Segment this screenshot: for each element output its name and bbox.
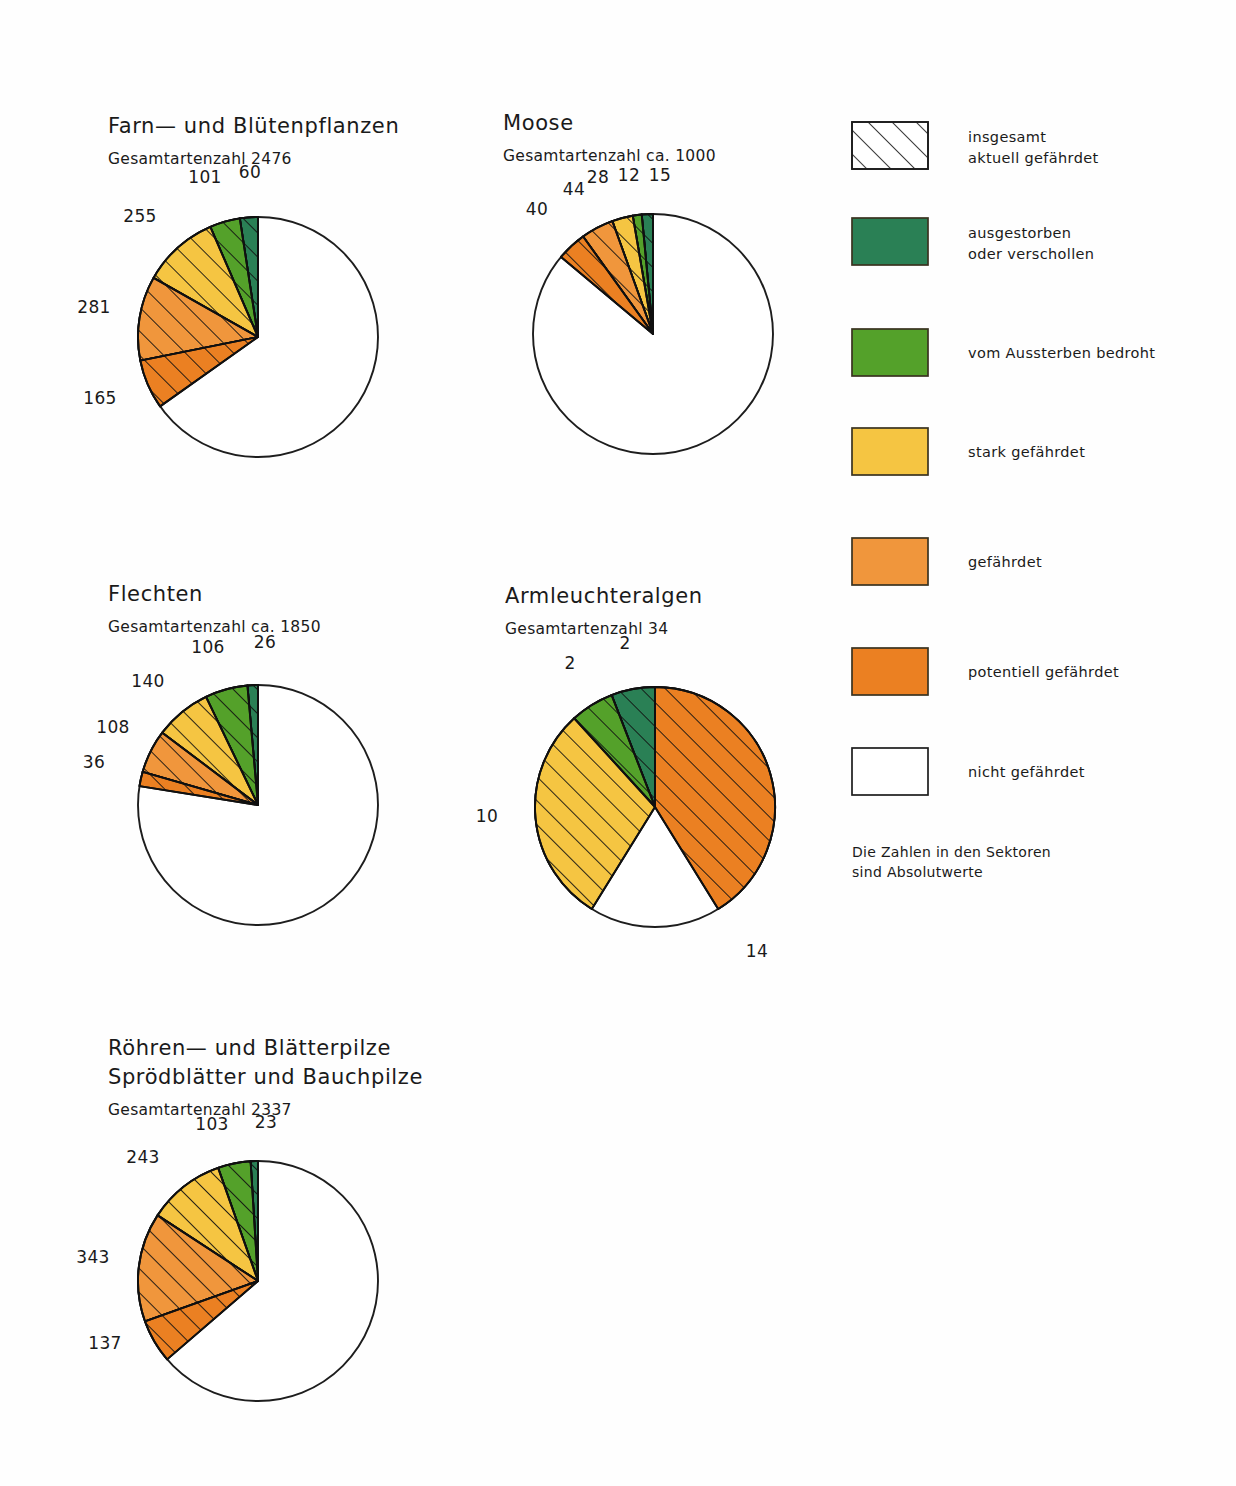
pie-title-1: Farn— und Blütenpflanzen — [108, 114, 399, 138]
figure-canvas: Farn— und BlütenpflanzenGesamtartenzahl … — [0, 0, 1236, 1486]
legend-label-3: vom Aussterben bedroht — [968, 345, 1155, 361]
pie-4-value-label-2: 2 — [564, 653, 575, 673]
pie-2-value-label-1: 15 — [649, 165, 671, 185]
legend-label-5: gefährdet — [968, 554, 1042, 570]
pie-1-value-label-3: 255 — [123, 206, 157, 226]
charts-layer: Farn— und BlütenpflanzenGesamtartenzahl … — [76, 111, 775, 1401]
pie-2-value-label-3: 28 — [587, 167, 609, 187]
legend: insgesamtaktuell gefährdetausgestorbenod… — [852, 122, 1155, 795]
pie-3-value-label-1: 26 — [254, 632, 276, 652]
legend-label-6: potentiell gefährdet — [968, 664, 1119, 680]
pie-title-2: Moose — [503, 111, 574, 135]
pie-5-value-label-3: 243 — [126, 1147, 160, 1167]
legend-swatch-1-hatch — [852, 122, 928, 169]
pie-3-value-label-5: 36 — [83, 752, 105, 772]
legend-label-2-line-2: oder verschollen — [968, 246, 1094, 262]
legend-item-3[interactable]: vom Aussterben bedroht — [852, 329, 1155, 376]
legend-swatch-7 — [852, 748, 928, 795]
legend-item-2[interactable]: ausgestorbenoder verschollen — [852, 218, 1094, 265]
pie-1-value-label-1: 60 — [239, 162, 261, 182]
legend-label-7: nicht gefährdet — [968, 764, 1085, 780]
pie-chart-3: FlechtenGesamtartenzahl ca. 185026106140… — [83, 582, 378, 925]
legend-item-6[interactable]: potentiell gefährdet — [852, 648, 1119, 695]
pie-chart-4: ArmleuchteralgenGesamtartenzahl 34221014 — [476, 584, 775, 961]
pie-1-value-label-5: 165 — [83, 388, 117, 408]
pie-subtitle-3: Gesamtartenzahl ca. 1850 — [108, 618, 321, 636]
legend-item-4[interactable]: stark gefährdet — [852, 428, 1085, 475]
pie-2-value-label-4: 44 — [563, 179, 585, 199]
legend-swatch-2 — [852, 218, 928, 265]
figure-note-line-2: sind Absolutwerte — [852, 864, 983, 880]
pie-3-value-label-2: 106 — [191, 637, 225, 657]
pie-1-value-label-4: 281 — [77, 297, 111, 317]
pie-5-value-label-2: 103 — [195, 1114, 229, 1134]
legend-swatch-6 — [852, 648, 928, 695]
legend-swatch-4 — [852, 428, 928, 475]
legend-item-5[interactable]: gefährdet — [852, 538, 1042, 585]
legend-label-1-line-1: insgesamt — [968, 129, 1046, 145]
pie-3-value-label-3: 140 — [131, 671, 165, 691]
pie-subtitle-1: Gesamtartenzahl 2476 — [108, 150, 292, 168]
pie-2-value-label-5: 40 — [526, 199, 548, 219]
pie-chart-5: Röhren— und BlätterpilzeSprödblätter und… — [76, 1036, 423, 1401]
pie-5-value-label-4: 137 — [88, 1333, 122, 1353]
figure-note-line-1: Die Zahlen in den Sektoren — [852, 844, 1051, 860]
pie-chart-1: Farn— und BlütenpflanzenGesamtartenzahl … — [77, 114, 399, 457]
pie-5-value-label-5: 343 — [76, 1247, 110, 1267]
pie-subtitle-2: Gesamtartenzahl ca. 1000 — [503, 147, 716, 165]
pie-title-5-line-2: Sprödblätter und Bauchpilze — [108, 1065, 423, 1089]
legend-swatch-5 — [852, 538, 928, 585]
legend-item-7[interactable]: nicht gefährdet — [852, 748, 1085, 795]
figure-note: Die Zahlen in den Sektorensind Absolutwe… — [852, 844, 1051, 880]
pie-5-value-label-1: 23 — [255, 1112, 277, 1132]
pie-title-3: Flechten — [108, 582, 203, 606]
pie-4-value-label-1: 2 — [619, 633, 630, 653]
pie-chart-2: MooseGesamtartenzahl ca. 10001512284440 — [503, 111, 773, 454]
pie-3-value-label-4: 108 — [96, 717, 130, 737]
pie-subtitle-4: Gesamtartenzahl 34 — [505, 620, 668, 638]
pie-title-4: Armleuchteralgen — [505, 584, 703, 608]
biodiversity-pie-figure: Farn— und BlütenpflanzenGesamtartenzahl … — [0, 0, 1236, 1486]
pie-4-value-label-3: 10 — [476, 806, 498, 826]
pie-1-value-label-2: 101 — [188, 167, 222, 187]
pie-4-value-label-4: 14 — [746, 941, 768, 961]
legend-swatch-3 — [852, 329, 928, 376]
pie-2-value-label-2: 12 — [618, 165, 640, 185]
pie-title-5-line-1: Röhren— und Blätterpilze — [108, 1036, 391, 1060]
legend-label-4: stark gefährdet — [968, 444, 1085, 460]
legend-label-1-line-2: aktuell gefährdet — [968, 150, 1099, 166]
legend-item-1[interactable]: insgesamtaktuell gefährdet — [852, 122, 1099, 169]
legend-label-2-line-1: ausgestorben — [968, 225, 1071, 241]
